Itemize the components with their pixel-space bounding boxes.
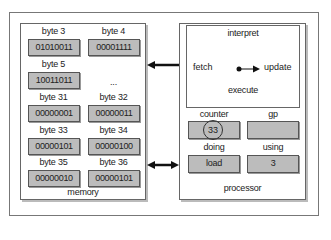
gp-label: gp [245,109,301,119]
byte-34-value: 00000100 [88,138,140,155]
counter-label: counter [186,109,242,119]
byte-36-label: byte 36 [86,157,141,167]
doing-label: doing [186,142,242,152]
byte-35-label: byte 35 [26,157,81,167]
interpret-label: interpret [186,28,300,38]
byte-36-value: 00000101 [88,170,140,187]
byte-31-label: byte 31 [26,92,81,102]
byte-3-label: byte 3 [26,26,81,36]
byte-3-value: 01010011 [28,39,80,56]
counter-value: 33 [203,120,223,140]
byte-4-value: 00001111 [88,39,140,56]
doing-register: load [188,155,240,173]
byte-4-label: byte 4 [86,26,141,36]
processor-label: processor [179,183,306,193]
memory-label: memory [20,187,146,197]
using-label: using [245,142,301,152]
arrow-processor-to-memory [146,60,180,70]
byte-34-label: byte 34 [86,125,141,135]
byte-5-label: byte 5 [26,59,81,69]
byte-33-label: byte 33 [26,125,81,135]
byte-32-label: byte 32 [86,92,141,102]
execute-label: execute [186,85,300,95]
byte-31-value: 00000001 [28,105,80,122]
cycle-arrow [236,64,262,74]
fetch-label: fetch [193,62,213,72]
byte-35-value: 00000010 [28,170,80,187]
gp-register [247,121,299,139]
byte-5-value: 10011011 [28,72,80,89]
arrow-bidirectional [146,160,180,170]
byte-32-value: 00000011 [88,105,140,122]
update-label: update [264,62,292,72]
byte-33-value: 00000101 [28,138,80,155]
ellipsis: ... [86,77,141,87]
using-register: 3 [247,155,299,173]
